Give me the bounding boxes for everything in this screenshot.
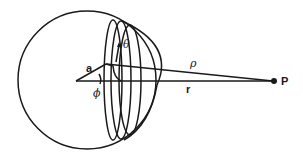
label-p: P [281, 75, 288, 87]
theta-arc [116, 45, 119, 62]
label-r: r [186, 83, 191, 95]
phi-arc [99, 74, 101, 84]
label-rho: ρ [189, 57, 197, 70]
label-phi: ϕ [93, 87, 101, 100]
sphere-diagram: a ϕ θ ρ r P [0, 0, 303, 164]
point-p-dot [271, 78, 277, 84]
label-theta: θ [123, 38, 130, 51]
label-a: a [86, 62, 93, 74]
